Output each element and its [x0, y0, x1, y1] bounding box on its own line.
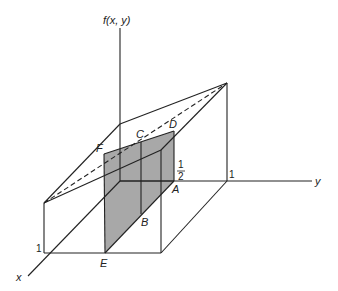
y-half-numerator: 1 [178, 159, 184, 170]
y-axis-label: y [314, 175, 322, 187]
point-B-label: B [141, 216, 148, 228]
x-one-tick: 1 [36, 243, 42, 254]
point-F-label: F [96, 142, 104, 154]
x-axis-label: x [15, 271, 22, 283]
vertical-axis-label: f(x, y) [103, 14, 131, 26]
point-A-label: A [171, 183, 179, 195]
box-right-bottom [161, 181, 227, 253]
top-right-edge [161, 83, 227, 150]
diagram-canvas: f(x, y) y x 1 1 1 2 A B C D E F [0, 0, 338, 291]
y-half-denominator: 2 [178, 171, 184, 182]
point-D-label: D [169, 118, 177, 130]
y-one-tick: 1 [229, 169, 235, 180]
point-C-label: C [136, 128, 144, 140]
point-E-label: E [100, 257, 108, 269]
